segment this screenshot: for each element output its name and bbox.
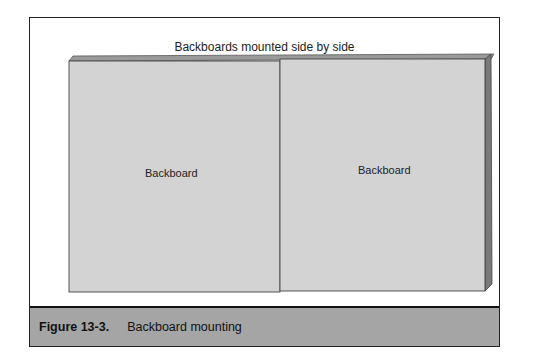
backboard-left-label: Backboard [145,167,198,179]
figure-frame: Backboards mounted side by side Backboar… [29,17,500,347]
figure-caption-text: Backboard mounting [127,320,242,334]
board-side-edge [485,54,492,291]
backboard-right-label: Backboard [358,164,411,176]
figure-caption: Figure 13-3. Backboard mounting [30,306,499,346]
figure-number: Figure 13-3. [39,320,109,334]
backboards-diagram [30,18,501,308]
